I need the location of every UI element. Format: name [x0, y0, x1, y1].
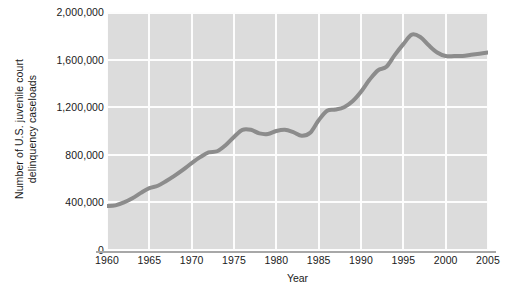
- x-axis-tick-label: 1990: [349, 254, 373, 266]
- x-axis-tick-label: 1970: [180, 254, 204, 266]
- x-axis-tick-label: 2000: [434, 254, 458, 266]
- chart-figure: Number of U.S. juvenile court delinquenc…: [0, 0, 514, 296]
- x-axis-tick-label: 1980: [264, 254, 288, 266]
- y-axis-tick-label: 800,000: [65, 149, 104, 161]
- y-axis-title-line2: delinquency caseloads: [26, 59, 39, 199]
- series-line: [107, 34, 488, 206]
- y-axis-tick-label: 1,600,000: [56, 54, 104, 66]
- y-axis-tick-label: 2,000,000: [56, 6, 104, 18]
- y-axis-tick-label: 1,200,000: [56, 101, 104, 113]
- x-axis-tick-label: 1960: [95, 254, 119, 266]
- x-axis-tick-label: 2005: [476, 254, 500, 266]
- x-axis-tick-label: 1965: [137, 254, 161, 266]
- x-axis-line: [96, 251, 496, 253]
- plot-area: [107, 12, 488, 250]
- y-axis-tick-label: 400,000: [65, 196, 104, 208]
- x-axis-tick-label: 1975: [222, 254, 246, 266]
- x-axis-title: Year: [107, 272, 488, 284]
- x-axis-tick-label: 1985: [307, 254, 331, 266]
- x-axis-tick-label: 1995: [391, 254, 415, 266]
- x-axis-tick-labels: 1960196519701975198019851990199520002005: [0, 254, 514, 270]
- y-axis-title-line1: Number of U.S. juvenile court: [13, 59, 25, 199]
- y-axis-title: Number of U.S. juvenile court delinquenc…: [0, 0, 52, 258]
- line-series-caseloads: [107, 12, 488, 250]
